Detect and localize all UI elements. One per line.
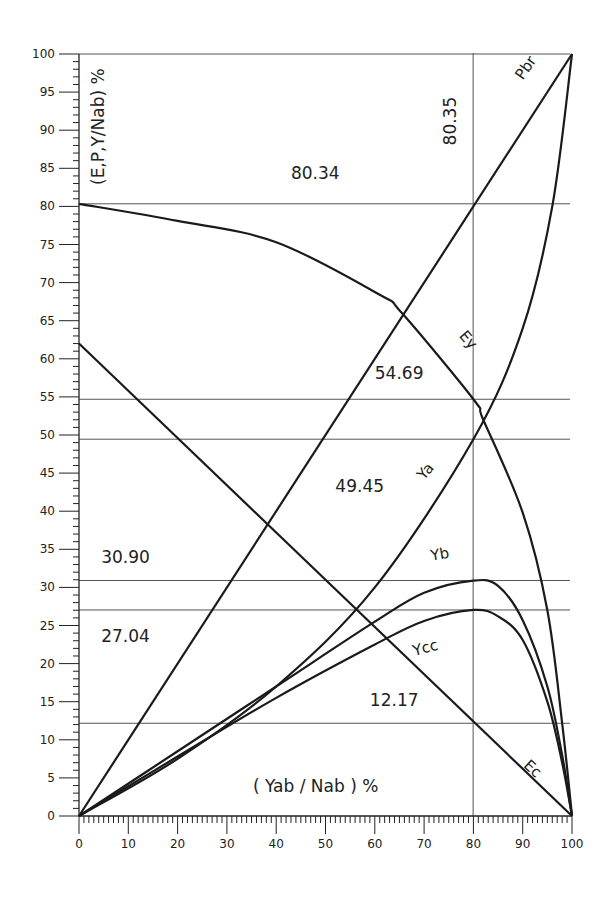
y-tick-label: 10 <box>40 733 55 747</box>
x-tick-label: 60 <box>367 837 382 851</box>
y-axis-title: (E,P,Y/Nab) % <box>88 68 108 185</box>
value-label: 30.90 <box>101 547 150 567</box>
x-tick-label: 50 <box>318 837 333 851</box>
series-ey <box>79 204 572 816</box>
curve-label-pbr: Pbr <box>511 52 540 83</box>
y-tick-label: 100 <box>32 47 55 61</box>
series-ec <box>79 344 572 816</box>
x-tick-label: 40 <box>269 837 284 851</box>
y-tick-label: 75 <box>40 238 55 252</box>
y-tick-label: 25 <box>40 619 55 633</box>
x-tick-label: 10 <box>121 837 136 851</box>
x-tick-label: 30 <box>219 837 234 851</box>
y-tick-label: 45 <box>40 466 55 480</box>
y-tick-label: 65 <box>40 314 55 328</box>
curve-label-ycc: Ycc <box>410 636 440 660</box>
value-label: 49.45 <box>335 476 384 496</box>
value-label: 80.35 <box>440 97 460 146</box>
curve-label-ec: Ec <box>520 756 545 781</box>
x-axis-title: ( Yab / Nab ) % <box>253 776 378 796</box>
x-tick-label: 100 <box>561 837 584 851</box>
value-label: 12.17 <box>370 690 419 710</box>
x-tick-label: 20 <box>170 837 185 851</box>
y-tick-label: 0 <box>47 809 55 823</box>
y-tick-label: 50 <box>40 428 55 442</box>
y-tick-label: 80 <box>40 199 55 213</box>
y-tick-label: 90 <box>40 123 55 137</box>
chart-canvas: 0051010152020253030354040455050556060657… <box>0 0 610 901</box>
y-tick-label: 55 <box>40 390 55 404</box>
y-tick-label: 15 <box>40 695 55 709</box>
value-label: 27.04 <box>101 626 150 646</box>
x-tick-label: 70 <box>416 837 431 851</box>
curve-label-yb: Yb <box>428 544 451 565</box>
y-tick-label: 70 <box>40 276 55 290</box>
x-tick-label: 80 <box>466 837 481 851</box>
y-tick-label: 5 <box>47 771 55 785</box>
value-label: 80.34 <box>291 163 340 183</box>
y-tick-label: 95 <box>40 85 55 99</box>
curve-label-ey: Ey <box>456 327 482 353</box>
y-tick-label: 20 <box>40 657 55 671</box>
value-label: 54.69 <box>375 363 424 383</box>
y-tick-label: 85 <box>40 161 55 175</box>
x-tick-label: 90 <box>515 837 530 851</box>
y-tick-label: 35 <box>40 542 55 556</box>
y-tick-label: 30 <box>40 580 55 594</box>
x-tick-label: 0 <box>75 837 83 851</box>
y-tick-label: 40 <box>40 504 55 518</box>
curve-label-ya: Ya <box>413 459 438 484</box>
y-tick-label: 60 <box>40 352 55 366</box>
